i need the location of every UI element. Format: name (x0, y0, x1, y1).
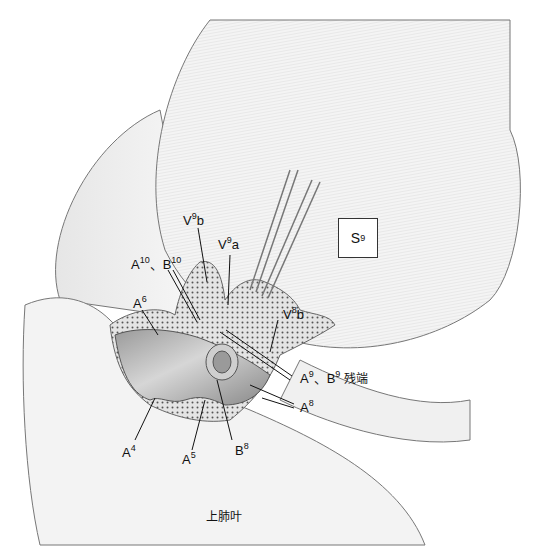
label-suffix: 、B (314, 371, 336, 386)
label-v9a: V9a (218, 238, 239, 251)
label-v9b: V9b (183, 214, 204, 227)
label-base: A (122, 445, 131, 460)
label-sup: 10 (140, 255, 150, 265)
label-suffix: a (232, 237, 239, 252)
label-base: A (182, 452, 191, 467)
label-suffix: b (297, 307, 304, 322)
label-a4: A4 (122, 446, 136, 459)
label-suffix: 、B (150, 257, 172, 272)
label-a8: A8 (300, 401, 314, 414)
label-base: V (283, 307, 292, 322)
label-sup2: 10 (171, 255, 181, 265)
label-base: A (131, 257, 140, 272)
label-a6: A6 (133, 297, 147, 310)
label-base: B (235, 443, 244, 458)
label-sup: 8 (244, 441, 249, 451)
label-a10-b10: A10、B10 (131, 258, 181, 271)
label-b8: B8 (235, 444, 249, 457)
label-base: A (300, 400, 309, 415)
label-v8b: V8b (283, 308, 304, 321)
illustration (0, 0, 539, 559)
segment-s9-box: S9 (338, 218, 378, 258)
label-sup: 4 (131, 443, 136, 453)
label-upper-lobe: 上肺叶 (206, 511, 242, 523)
label-a9-b9-stump: A9、B9 残端 (300, 372, 368, 385)
label-base: V (183, 213, 192, 228)
label-base: V (218, 237, 227, 252)
anatomical-figure: S9 V9b V9a A10、B10 A6 V8b A9、B9 残端 A8 A4… (0, 0, 539, 559)
label-sup: 5 (191, 450, 196, 460)
label-sup: 6 (142, 294, 147, 304)
segment-box-base: S (351, 230, 360, 246)
label-base: A (300, 371, 309, 386)
label-base: A (133, 296, 142, 311)
label-sup: 8 (309, 398, 314, 408)
label-a5: A5 (182, 453, 196, 466)
label-suffix: b (197, 213, 204, 228)
label-tail: 残端 (340, 372, 368, 386)
